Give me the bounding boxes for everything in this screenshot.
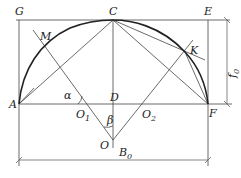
label-O1: O1 [76, 108, 90, 123]
label-K: K [189, 44, 199, 57]
diagram-canvas: G C E M K A D F α β O1 O2 O B0 f0 [0, 0, 241, 178]
svg-text:f0: f0 [226, 69, 241, 79]
label-D: D [109, 91, 119, 104]
label-A: A [8, 98, 17, 111]
svg-text:O2: O2 [142, 108, 156, 123]
label-f0: f0 [226, 69, 241, 79]
label-beta: β [106, 114, 113, 127]
label-M: M [39, 30, 52, 43]
label-C: C [109, 5, 118, 18]
label-F: F [208, 107, 217, 120]
svg-text:O1: O1 [76, 108, 90, 123]
label-B0: B0 [118, 146, 132, 161]
label-E: E [203, 5, 212, 18]
arc-construction-diagram: G C E M K A D F α β O1 O2 O B0 f0 [0, 0, 241, 178]
label-G: G [15, 5, 24, 18]
label-O: O [100, 139, 109, 152]
label-alpha: α [64, 89, 72, 102]
svg-text:B0: B0 [118, 146, 132, 161]
label-O2: O2 [142, 108, 156, 123]
